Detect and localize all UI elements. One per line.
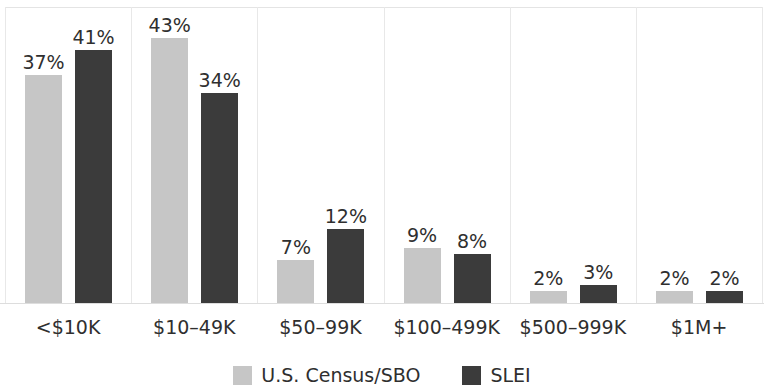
bar-slei-1[interactable]: [75, 50, 112, 303]
bar-value-label: 3%: [566, 262, 631, 282]
bar-value-label: 37%: [11, 52, 76, 72]
bar-slei-5[interactable]: [580, 285, 617, 304]
x-tick-label-5: $500–999K: [510, 312, 636, 342]
bar-slot: 43%: [151, 7, 188, 303]
bar-slot: 12%: [327, 7, 364, 303]
bar-value-label: 8%: [440, 231, 505, 251]
bar-u-s-census-sbo-3[interactable]: [277, 260, 314, 303]
bar-slot: 2%: [530, 7, 567, 303]
bar-value-label: 7%: [263, 237, 328, 257]
legend-label: U.S. Census/SBO: [261, 365, 420, 385]
legend-item-2[interactable]: SLEI: [462, 365, 530, 385]
bar-value-label: 2%: [692, 268, 757, 288]
bar-group-4: 9%8%: [384, 7, 510, 303]
bar-group-2: 43%34%: [131, 7, 257, 303]
x-tick-label-2: $10–49K: [131, 312, 257, 342]
bar-u-s-census-sbo-6[interactable]: [656, 291, 693, 303]
x-tick-label-3: $50–99K: [257, 312, 383, 342]
x-tick-label-6: $1M+: [636, 312, 762, 342]
bar-slei-3[interactable]: [327, 229, 364, 303]
bar-slei-2[interactable]: [201, 93, 238, 303]
legend-swatch-slei-icon: [462, 366, 481, 385]
grouped-bar-chart: 2%2%2%3%9%8%7%12%43%34%37%41% <$10K$10–4…: [0, 0, 764, 392]
bar-u-s-census-sbo-1[interactable]: [25, 75, 62, 303]
bar-slot: 9%: [404, 7, 441, 303]
bar-value-label: 43%: [137, 15, 202, 35]
bar-u-s-census-sbo-2[interactable]: [151, 38, 188, 303]
bar-value-label: 12%: [313, 206, 378, 226]
chart-legend: U.S. Census/SBOSLEI: [0, 358, 764, 392]
bar-slot: 7%: [277, 7, 314, 303]
bar-slot: 3%: [580, 7, 617, 303]
bar-u-s-census-sbo-4[interactable]: [404, 248, 441, 304]
legend-item-1[interactable]: U.S. Census/SBO: [233, 365, 420, 385]
bar-u-s-census-sbo-5[interactable]: [530, 291, 567, 303]
bar-slei-4[interactable]: [454, 254, 491, 303]
bar-slot: 37%: [25, 7, 62, 303]
x-tick-label-4: $100–499K: [384, 312, 510, 342]
bar-slot: 2%: [706, 7, 743, 303]
bar-slot: 2%: [656, 7, 693, 303]
bar-group-3: 7%12%: [257, 7, 383, 303]
bar-group-6: 2%2%: [636, 7, 762, 303]
legend-swatch-census-icon: [233, 366, 252, 385]
bar-slot: 34%: [201, 7, 238, 303]
bar-slei-6[interactable]: [706, 291, 743, 303]
bar-group-5: 2%3%: [510, 7, 636, 303]
bar-slot: 41%: [75, 7, 112, 303]
bar-value-label: 34%: [187, 70, 252, 90]
legend-label: SLEI: [490, 365, 530, 385]
bar-slot: 8%: [454, 7, 491, 303]
bar-group-1: 37%41%: [5, 7, 131, 303]
x-axis-baseline: [0, 303, 764, 304]
x-tick-label-1: <$10K: [5, 312, 131, 342]
bar-value-label: 41%: [61, 27, 126, 47]
